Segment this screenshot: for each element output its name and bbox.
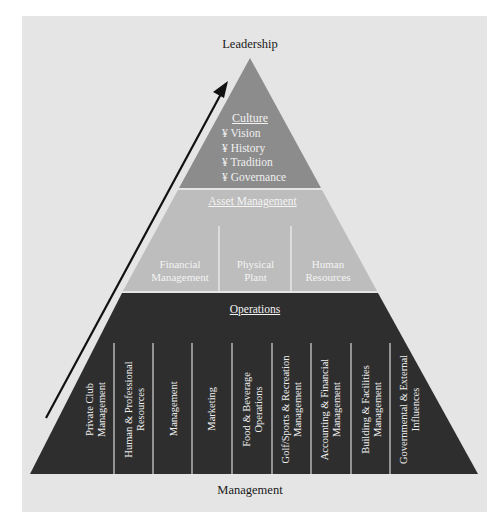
ops-col-line: Management <box>95 382 107 437</box>
ops-col-line: Management <box>371 365 383 454</box>
culture-bullet-tradition: ¥ Tradition <box>222 155 286 170</box>
culture-bullet-history: ¥ History <box>222 141 286 156</box>
ops-col-line: Marketing <box>206 387 218 431</box>
ops-col-line: Accounting & Financial <box>320 358 332 459</box>
ops-col-marketing: Marketing <box>192 345 232 473</box>
bottom-label-management: Management <box>200 483 300 498</box>
ops-col-line: Operations <box>252 372 264 447</box>
ops-col-line: Private Club <box>84 382 96 437</box>
asset-management-title: Asset Management <box>170 195 335 207</box>
ops-col-line: Governmental & External <box>399 354 411 463</box>
ops-col-building: Building & FacilitiesManagement <box>351 345 391 473</box>
ops-col-line: Management <box>331 358 343 459</box>
asset-col-physical: Physical Plant <box>220 258 291 283</box>
ops-col-human-professional: Human & ProfessionalResources <box>114 345 154 473</box>
ops-col-line: Management <box>292 355 304 463</box>
ops-col-line: Influences <box>410 354 422 463</box>
culture-bullet-list: ¥ Vision ¥ History ¥ Tradition ¥ Governa… <box>222 126 286 184</box>
operations-title: Operations <box>200 303 310 315</box>
culture-bullet-governance: ¥ Governance <box>222 170 286 185</box>
ops-col-line: Food & Beverage <box>241 372 253 447</box>
asset-col-line: Physical <box>220 258 291 271</box>
asset-col-financial: Financial Management <box>140 258 220 283</box>
ops-col-golf-sports: Golf/Sports & RecreationManagement <box>272 345 312 473</box>
asset-col-human: Human Resources <box>292 258 364 283</box>
asset-col-line: Human <box>292 258 364 271</box>
ops-col-line: Building & Facilities <box>360 365 372 454</box>
asset-col-line: Resources <box>292 271 364 284</box>
ops-col-management: Management <box>153 345 193 473</box>
ops-col-accounting: Accounting & FinancialManagement <box>311 345 351 473</box>
ops-col-private-club: Private ClubManagement <box>75 345 115 473</box>
culture-title: Culture <box>200 111 300 126</box>
culture-bullet-vision: ¥ Vision <box>222 126 286 141</box>
asset-col-line: Financial <box>140 258 220 271</box>
asset-col-line: Management <box>140 271 220 284</box>
asset-col-line: Plant <box>220 271 291 284</box>
top-label-leadership: Leadership <box>200 37 300 52</box>
ops-col-food-beverage: Food & BeverageOperations <box>232 345 272 473</box>
ops-col-line: Resources <box>134 361 146 457</box>
ops-col-line: Golf/Sports & Recreation <box>281 355 293 463</box>
ops-col-line: Human & Professional <box>123 361 135 457</box>
ops-col-line: Management <box>167 382 179 437</box>
ops-col-governmental: Governmental & ExternalInfluences <box>390 345 430 473</box>
